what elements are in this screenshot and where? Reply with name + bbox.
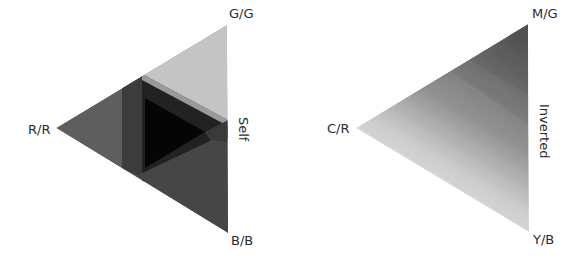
diagram-canvas <box>0 0 587 262</box>
self-triangle <box>56 25 228 233</box>
vertex-label-bottom-self: B/B <box>231 234 253 247</box>
inverted-triangle <box>356 24 529 232</box>
vertex-label-left-self: R/R <box>28 123 50 136</box>
vertex-label-left-inverted: C/R <box>327 122 350 135</box>
side-label-inverted: Inverted <box>538 104 551 158</box>
vertex-label-top-self: G/G <box>229 7 254 20</box>
vertex-label-bottom-inverted: Y/B <box>533 233 554 246</box>
side-label-self: Self <box>237 117 250 141</box>
vertex-label-top-inverted: M/G <box>532 7 558 20</box>
